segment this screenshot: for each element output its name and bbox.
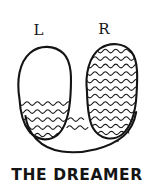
hatch-row xyxy=(82,64,144,68)
hatch-row xyxy=(82,94,144,98)
hatch-row xyxy=(40,140,118,144)
hatch-row xyxy=(14,133,71,136)
hatch-stray xyxy=(67,126,88,130)
hatch-row xyxy=(82,49,144,53)
label-left-hemisphere: L xyxy=(34,21,44,39)
left-lobe-hatching xyxy=(14,102,82,137)
right-lobe-group xyxy=(82,44,144,138)
dreamer-illustration: L R THE DREAMER xyxy=(0,0,152,193)
hatch-row xyxy=(14,110,82,114)
hatch-row xyxy=(88,131,124,134)
hatch-row xyxy=(14,102,82,106)
sketch-canvas: L R THE DREAMER xyxy=(0,0,152,193)
hatch-stray xyxy=(68,118,84,122)
label-right-hemisphere: R xyxy=(98,20,110,38)
left-lobe-group xyxy=(14,47,88,139)
hatch-row xyxy=(82,87,144,91)
caption-title: THE DREAMER xyxy=(11,166,142,184)
hatch-row xyxy=(82,72,144,76)
hatch-row xyxy=(82,79,144,83)
